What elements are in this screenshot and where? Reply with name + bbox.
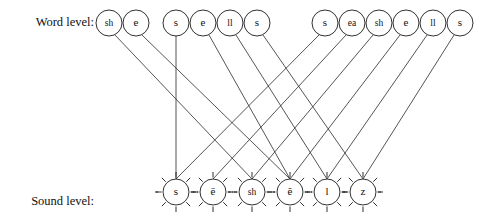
node-label: s xyxy=(458,16,462,28)
word-unit-node: e xyxy=(190,10,216,36)
sound-node-ray xyxy=(349,202,353,206)
node-label: s xyxy=(255,16,259,28)
node-label: s xyxy=(323,16,327,28)
sound-node-ray xyxy=(186,178,190,182)
sound-node-ray xyxy=(186,202,190,206)
node-label: ll xyxy=(227,18,233,28)
word-unit-node: ea xyxy=(339,10,365,36)
sound-node-ray xyxy=(162,178,166,182)
node-label: ea xyxy=(348,18,357,28)
node-label: ĕ xyxy=(288,185,293,197)
sound-node-ray xyxy=(199,178,203,182)
connection-line xyxy=(290,35,400,179)
word-unit-node: s xyxy=(447,10,473,36)
sound-node-ray xyxy=(373,178,377,182)
word-unit-node: s xyxy=(163,10,189,36)
word-unit-node: sh xyxy=(366,10,392,36)
connection-line xyxy=(115,35,252,179)
node-label: ll xyxy=(430,18,436,28)
connection-line xyxy=(142,35,290,179)
node-label: ē xyxy=(211,185,216,197)
word-unit-node: s xyxy=(312,10,338,36)
sound-unit-node: z xyxy=(350,179,376,205)
sound-node-ray xyxy=(223,178,227,182)
sound-node-ray xyxy=(276,178,280,182)
sound-unit-node: sh xyxy=(239,179,265,205)
sound-node-ray xyxy=(238,178,242,182)
sound-node-ray xyxy=(337,178,341,182)
sound-node-ray xyxy=(300,202,304,206)
word-unit-node: ll xyxy=(217,10,243,36)
sound-node-ray xyxy=(313,202,317,206)
sound-node-ray xyxy=(313,178,317,182)
word-unit-node: ll xyxy=(420,10,446,36)
sound-unit-node: ĕ xyxy=(277,179,303,205)
node-label: e xyxy=(201,16,206,28)
connection-line xyxy=(176,35,319,179)
sound-unit-node: l xyxy=(314,179,340,205)
node-label: sh xyxy=(105,18,114,28)
word-unit-node: e xyxy=(123,10,149,36)
connection-line xyxy=(252,35,373,179)
sound-node-ray xyxy=(276,202,280,206)
sound-node-ray xyxy=(262,178,266,182)
word-level-nodes-group: shesellsseashells xyxy=(96,10,473,36)
word-unit-node: e xyxy=(393,10,419,36)
node-label: l xyxy=(325,185,328,197)
word-unit-node: s xyxy=(244,10,270,36)
sound-unit-node: s xyxy=(163,179,189,205)
sound-node-ray xyxy=(162,202,166,206)
sound-node-ray xyxy=(300,178,304,182)
node-label: e xyxy=(134,16,139,28)
sound-node-ray xyxy=(199,202,203,206)
node-label: sh xyxy=(375,18,384,28)
connection-lines-group xyxy=(115,35,454,179)
node-label: e xyxy=(404,16,409,28)
sound-node-ray xyxy=(223,202,227,206)
phoneme-mapping-diagram: Word level: Sound level: (last word) she… xyxy=(0,0,501,216)
connection-line xyxy=(213,35,346,179)
sound-node-ray xyxy=(373,202,377,206)
node-label: sh xyxy=(248,187,257,197)
node-label: s xyxy=(174,16,178,28)
sound-unit-node: ē xyxy=(200,179,226,205)
sound-node-ray xyxy=(337,202,341,206)
node-label: s xyxy=(174,185,178,197)
sound-node-ray xyxy=(262,202,266,206)
sound-node-ray xyxy=(238,202,242,206)
word-unit-node: sh xyxy=(96,10,122,36)
diagram-canvas: shesellsseashells sēshĕlz xyxy=(0,0,501,216)
sound-node-ray xyxy=(349,178,353,182)
node-label: z xyxy=(361,185,366,197)
